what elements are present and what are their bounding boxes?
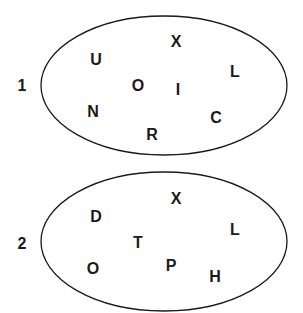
set-letter: X <box>171 190 182 207</box>
set-letter: D <box>90 208 102 225</box>
set-letter: C <box>210 109 222 126</box>
set-letter: N <box>87 103 99 120</box>
set-letter: T <box>133 234 143 251</box>
set-2: 2XDLTOPH <box>18 172 287 311</box>
set-letter: O <box>87 260 99 277</box>
set-number-label: 1 <box>18 77 27 94</box>
set-number-label: 2 <box>18 235 27 252</box>
set-ellipse <box>41 172 287 311</box>
set-letter: X <box>171 33 182 50</box>
set-letter: U <box>90 51 102 68</box>
set-letter: I <box>176 81 180 98</box>
set-ellipse <box>41 16 287 155</box>
set-letter: L <box>230 63 240 80</box>
set-letter: P <box>166 257 177 274</box>
set-letter: O <box>132 77 144 94</box>
set-letter: L <box>230 221 240 238</box>
set-1: 1XULOINCR <box>18 16 287 155</box>
set-letter: R <box>146 126 158 143</box>
letter-sets-diagram: 1XULOINCR2XDLTOPH <box>0 0 303 313</box>
set-letter: H <box>209 268 221 285</box>
